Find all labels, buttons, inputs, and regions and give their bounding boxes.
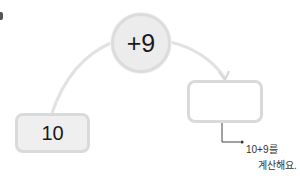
hint-line-1: 10+9를: [246, 144, 278, 155]
answer-box[interactable]: [187, 80, 263, 123]
hint-note: 10+9를 계산해요.: [246, 142, 297, 174]
operation-circle: +9: [111, 13, 171, 73]
start-number: 10: [41, 122, 63, 145]
hint-line-2: 계산해요.: [246, 158, 297, 174]
start-number-box: 10: [15, 113, 90, 153]
operation-label: +9: [127, 29, 156, 58]
